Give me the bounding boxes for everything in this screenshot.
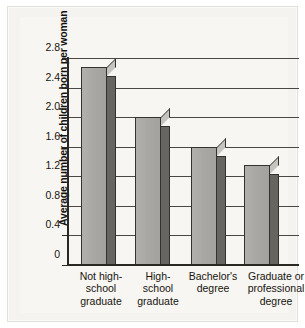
category-label-line: professional	[237, 282, 305, 294]
figure-inner: Average number of children born per woma…	[20, 17, 288, 313]
bar-top-face	[161, 108, 170, 126]
y-tick-label: 0.8	[45, 189, 60, 201]
x-axis-category-labels: Not high-schoolgraduateHigh-schoolgradua…	[67, 270, 305, 320]
y-axis-line	[67, 57, 69, 266]
bar-side-face	[107, 76, 116, 265]
bar-top-face	[270, 156, 279, 174]
y-tick-label: 2.0	[45, 100, 60, 112]
plot-area: 00.40.81.21.62.02.42.8	[67, 59, 283, 266]
bar-top-face	[217, 138, 226, 156]
bar-front-face	[81, 67, 107, 265]
bar	[244, 165, 270, 265]
y-tick-label: 1.2	[45, 159, 60, 171]
y-tick-label: 2.4	[45, 71, 60, 83]
y-tick-label: 2.8	[45, 41, 60, 53]
bar	[81, 67, 107, 265]
bar-front-face	[244, 165, 270, 265]
category-label-line: graduate	[126, 295, 190, 307]
y-tick-label: 1.6	[45, 130, 60, 142]
bar-side-face	[161, 126, 170, 265]
bar-side-face	[217, 156, 226, 265]
bar-front-face	[191, 147, 217, 265]
category-label-line: degree	[237, 295, 305, 307]
bar-front-face	[135, 117, 161, 265]
bar	[135, 117, 161, 265]
figure-plate: Average number of children born per woma…	[7, 6, 298, 322]
bar	[191, 147, 217, 265]
bar-side-face	[270, 174, 279, 265]
figure-frame: Average number of children born per woma…	[0, 0, 305, 328]
x-axis-line	[67, 264, 299, 266]
category-label: Graduate orprofessionaldegree	[237, 270, 305, 307]
gridline	[67, 58, 299, 59]
y-tick-label: 0.4	[45, 218, 60, 230]
y-tick-label: 0	[54, 248, 60, 260]
bar-top-face	[107, 58, 116, 76]
category-label-line: Graduate or	[237, 270, 305, 282]
